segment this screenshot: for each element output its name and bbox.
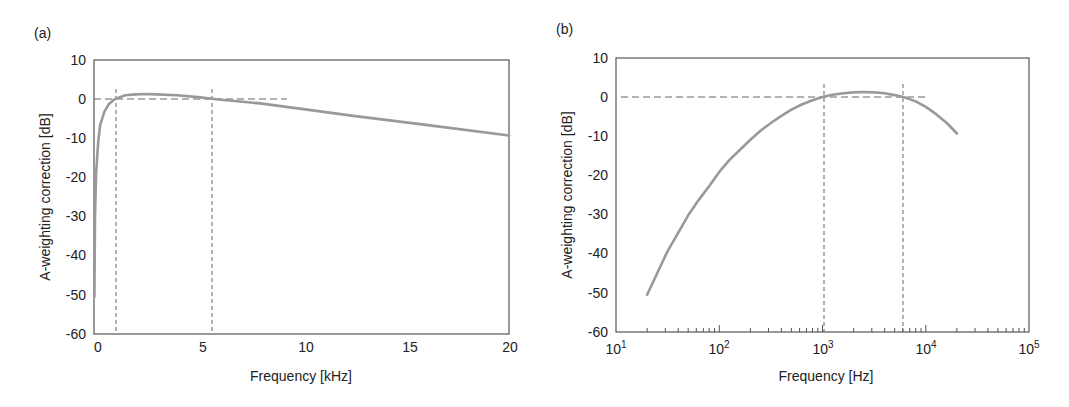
panel-b-plot-frame	[616, 58, 1029, 332]
panel-b-label: (b)	[556, 21, 573, 37]
x-tick: 105	[1018, 339, 1040, 357]
panel-a-x-ticks: 0 5 10 15 20	[94, 339, 518, 355]
x-tick: 5	[199, 339, 207, 355]
y-tick: -60	[66, 326, 86, 342]
panel-a-curve	[94, 94, 509, 297]
panel-b-x-minor-ticks	[647, 325, 1024, 332]
y-tick: -50	[588, 285, 608, 301]
panel-a-reference-lines	[94, 89, 287, 334]
x-tick: 102	[708, 339, 730, 357]
figure: (a) 10 0 -10 -20 -30 -40 -50 -60 0 5 10 …	[0, 0, 1069, 407]
x-tick: 103	[812, 339, 834, 357]
panel-b-y-ticks: 10 0 -10 -20 -30 -40 -50 -60	[588, 50, 608, 340]
x-tick: 104	[915, 339, 937, 357]
x-tick: 10	[298, 339, 314, 355]
y-tick: 0	[600, 89, 608, 105]
panel-a-y-axis-title: A-weighting correction [dB]	[37, 113, 53, 280]
panel-a-plot-frame	[94, 60, 509, 334]
panel-b-y-axis-title: A-weighting correction [dB]	[559, 111, 575, 278]
y-tick: -30	[588, 206, 608, 222]
x-tick: 0	[94, 339, 102, 355]
y-tick: -50	[66, 287, 86, 303]
x-tick: 20	[502, 339, 518, 355]
y-tick: 10	[592, 50, 608, 66]
panel-a-label: (a)	[34, 25, 51, 41]
y-tick: -30	[66, 208, 86, 224]
y-tick: -60	[588, 324, 608, 340]
y-tick: 10	[70, 52, 86, 68]
y-tick: -40	[588, 245, 608, 261]
panel-b: (b) 10 0 -10 -20 -30 -40 -50 -60	[556, 21, 1040, 384]
x-tick: 15	[402, 339, 418, 355]
y-tick: -20	[66, 169, 86, 185]
x-tick: 101	[605, 339, 627, 357]
y-tick: -10	[66, 130, 86, 146]
panel-b-x-axis-title: Frequency [Hz]	[779, 368, 874, 384]
panel-a-x-axis-title: Frequency [kHz]	[250, 368, 352, 384]
panel-b-curve	[647, 92, 957, 295]
y-tick: -20	[588, 167, 608, 183]
panel-a-y-ticks: 10 0 -10 -20 -30 -40 -50 -60	[66, 52, 86, 342]
y-tick: -40	[66, 247, 86, 263]
y-tick: -10	[588, 128, 608, 144]
panel-a: (a) 10 0 -10 -20 -30 -40 -50 -60 0 5 10 …	[34, 25, 518, 384]
panel-b-x-ticks: 101 102 103 104 105	[605, 339, 1040, 357]
y-tick: 0	[78, 91, 86, 107]
